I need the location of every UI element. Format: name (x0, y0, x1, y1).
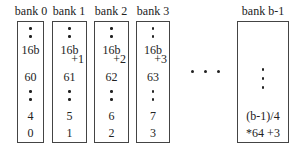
bank-cell-6: 6 (95, 110, 128, 122)
ellipsis-dot (68, 90, 71, 93)
ellipsis-dot (152, 90, 155, 93)
bank-box: 16b +1 61 5 1 (52, 21, 87, 143)
bank-cell-2: 2 (95, 127, 128, 139)
bank-cell-5: 5 (53, 110, 86, 122)
bank-label: bank 0 (12, 4, 50, 19)
bank-offset: +2 (113, 53, 126, 65)
bank-label: bank 1 (50, 4, 88, 19)
ellipsis-dot (68, 35, 71, 38)
ellipsis-dot (152, 98, 155, 101)
ellipsis-dot (68, 27, 71, 30)
bank-label: bank 3 (134, 4, 172, 19)
ellipsis-dot (29, 35, 32, 38)
ellipsis-dot (262, 68, 265, 71)
bank-cell-1: 1 (53, 127, 86, 139)
bank-box-last: (b-1)/4 *64 +3 (237, 21, 289, 143)
ellipsis-dot (68, 98, 71, 101)
bank-box: 16b +3 63 7 3 (136, 21, 170, 143)
ellipsis-dot (152, 35, 155, 38)
bank-formula-line2: *64 +3 (238, 127, 288, 139)
ellipsis-dot (29, 98, 32, 101)
ellipsis-dot (152, 27, 155, 30)
bank-cell-62: 62 (95, 71, 128, 83)
bank-offset: +3 (154, 53, 167, 65)
ellipsis-dot (262, 77, 265, 80)
bank-cell-16b: 16b (18, 44, 43, 56)
bank-box: 16b 60 4 0 (17, 21, 44, 143)
bank-label: bank 2 (92, 4, 130, 19)
ellipsis-dot (29, 90, 32, 93)
bank-box: 16b +2 62 6 2 (94, 21, 129, 143)
ellipsis-dot (110, 27, 113, 30)
ellipsis-dot (262, 86, 265, 89)
bank-cell-3: 3 (137, 127, 169, 139)
bank-cell-61: 61 (53, 71, 86, 83)
bank-cell-7: 7 (137, 110, 169, 122)
bank-cell-0: 0 (18, 127, 43, 139)
ellipsis-dot (110, 90, 113, 93)
bank-cell-63: 63 (137, 71, 169, 83)
horizontal-ellipsis-icon (186, 70, 231, 74)
ellipsis-dot (110, 98, 113, 101)
bank-formula-line1: (b-1)/4 (238, 110, 288, 122)
bank-offset: +1 (71, 53, 84, 65)
ellipsis-dot (110, 35, 113, 38)
bank-label: bank b-1 (237, 4, 289, 19)
bank-cell-4: 4 (18, 110, 43, 122)
ellipsis-dot (29, 27, 32, 30)
bank-cell-60: 60 (18, 71, 43, 83)
